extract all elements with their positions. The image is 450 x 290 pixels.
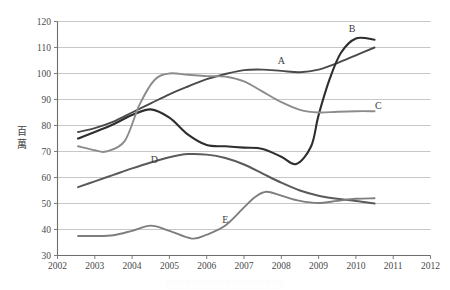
x-tick-label-2008: 2008	[272, 261, 291, 271]
y-tick-label-90: 90	[42, 95, 52, 105]
y-axis-label-char-1: 萬	[17, 138, 27, 150]
series-label-A: A	[278, 55, 286, 66]
x-tick-label-2004: 2004	[123, 261, 142, 271]
y-tick-label-50: 50	[42, 199, 52, 209]
y-tick-label-80: 80	[42, 121, 52, 131]
y-tick-label-110: 110	[37, 43, 51, 53]
series-line-D	[78, 154, 375, 204]
x-tick-label-2003: 2003	[85, 261, 104, 271]
axes-group	[54, 22, 431, 260]
y-tick-label-100: 100	[37, 69, 52, 79]
chart-canvas: 30405060708090100110120 2002200320042005…	[0, 0, 450, 290]
line-chart: 30405060708090100110120 2002200320042005…	[0, 0, 450, 290]
x-tick-label-2012: 2012	[421, 261, 440, 271]
footnote-watermark: ░░░░░░░░░░░░░░░░░░	[0, 280, 450, 289]
series-line-B	[78, 38, 375, 165]
x-tick-label-2007: 2007	[235, 261, 254, 271]
series-labels-group: ABCDE	[151, 23, 382, 225]
y-tick-label-40: 40	[42, 225, 52, 235]
x-tick-label-2010: 2010	[346, 261, 365, 271]
x-tick-label-2002: 2002	[48, 261, 67, 271]
series-label-D: D	[151, 154, 158, 165]
x-tick-label-2005: 2005	[160, 261, 179, 271]
y-tick-label-120: 120	[37, 17, 52, 27]
y-tick-label-60: 60	[42, 173, 52, 183]
series-label-C: C	[375, 100, 382, 111]
gridlines-group	[58, 22, 431, 256]
y-tick-label-70: 70	[42, 147, 52, 157]
x-tick-label-2009: 2009	[309, 261, 328, 271]
series-curves-group	[78, 38, 375, 239]
y-axis-label: 百萬	[17, 126, 27, 150]
series-line-C	[78, 73, 375, 152]
x-tick-labels-group: 2002200320042005200620072008200920102011…	[48, 261, 440, 271]
x-tick-label-2011: 2011	[384, 261, 403, 271]
y-tick-labels-group: 30405060708090100110120	[37, 17, 52, 261]
x-tick-label-2006: 2006	[197, 261, 216, 271]
y-axis-label-char-0: 百	[17, 126, 27, 137]
series-label-E: E	[222, 214, 228, 225]
y-tick-label-30: 30	[42, 251, 52, 261]
series-label-B: B	[349, 23, 356, 34]
